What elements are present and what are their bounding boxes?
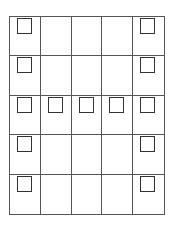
grid-cell [133,135,164,174]
square-icon [17,18,32,34]
grid-cell [102,96,133,135]
grid-cell [72,17,103,56]
grid-cell [41,56,72,95]
grid-cell [72,56,103,95]
square-icon [17,136,32,152]
grid-cell [10,17,41,56]
grid-cell [72,135,103,174]
square-icon [17,57,32,73]
grid-cell [10,56,41,95]
grid-cell [41,175,72,214]
square-icon [17,97,32,113]
grid-cell [41,96,72,135]
grid-cell [72,96,103,135]
grid-diagram [9,16,165,215]
grid-cell [133,56,164,95]
grid-cell [102,135,133,174]
grid-cell [133,175,164,214]
grid-cell [41,135,72,174]
grid-cell [72,175,103,214]
grid-cell [10,135,41,174]
square-icon [140,18,155,34]
square-icon [140,57,155,73]
grid-cell [102,56,133,95]
square-icon [17,176,32,192]
square-icon [140,176,155,192]
square-icon [140,136,155,152]
square-icon [79,97,94,113]
grid-cell [10,96,41,135]
square-icon [109,97,124,113]
square-icon [140,97,155,113]
grid-cell [10,175,41,214]
grid-cell [133,96,164,135]
square-icon [48,97,63,113]
grid-cell [102,175,133,214]
grid-cell [102,17,133,56]
grid-cell [133,17,164,56]
grid-cell [41,17,72,56]
